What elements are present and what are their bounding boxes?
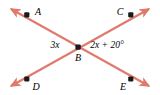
point-dot-C	[128, 12, 133, 17]
geometry-figure: A C B D E 3x 2x + 20°	[0, 0, 160, 95]
point-label-D: D	[32, 82, 39, 92]
point-label-A: A	[35, 7, 41, 17]
point-dot-E	[128, 76, 133, 81]
point-label-C: C	[117, 7, 124, 17]
point-label-B: B	[75, 53, 81, 63]
diagram-canvas	[0, 0, 160, 95]
point-dot-D	[24, 76, 29, 81]
point-label-E: E	[120, 82, 126, 92]
angle-label-right: 2x + 20°	[90, 41, 123, 51]
point-dot-B	[75, 44, 80, 49]
point-dot-A	[24, 12, 29, 17]
angle-label-left: 3x	[51, 41, 60, 51]
